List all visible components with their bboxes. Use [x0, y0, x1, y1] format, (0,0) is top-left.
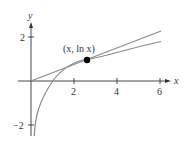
y-axis-label: y	[27, 10, 33, 21]
y-axis-arrow-icon	[29, 22, 33, 28]
y-tick-label-2: 2	[20, 32, 25, 43]
x-axis-arrow-icon	[165, 79, 171, 83]
x-tick-label-6: 6	[157, 86, 162, 97]
x-tick-label-4: 4	[114, 86, 119, 97]
point-annotation: (x, ln x)	[63, 43, 95, 55]
y-tick-label-neg2: −2	[13, 120, 24, 131]
tangent-line	[31, 31, 161, 81]
x-tick-label-2: 2	[71, 86, 76, 97]
tangent-point-marker	[84, 57, 90, 63]
chart-canvas: y x 2 4 6 2 −2 (x, ln x)	[0, 0, 189, 145]
x-axis-label: x	[173, 75, 179, 86]
